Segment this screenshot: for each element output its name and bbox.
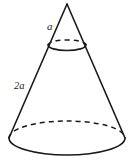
base-ellipse-back-arc bbox=[9, 121, 125, 138]
label-lower-slant-2a: 2a bbox=[14, 80, 25, 91]
cone-diagram-svg: a 2a bbox=[0, 0, 135, 163]
cone-figure: a 2a bbox=[0, 0, 135, 163]
base-ellipse-front-arc bbox=[9, 138, 125, 155]
cone-left-slant-line bbox=[9, 4, 67, 138]
upper-ellipse-front-arc bbox=[48, 45, 86, 51]
cone-right-slant-line bbox=[67, 4, 125, 138]
label-upper-slant-a: a bbox=[47, 20, 53, 32]
upper-ellipse-back-arc bbox=[48, 40, 86, 45]
